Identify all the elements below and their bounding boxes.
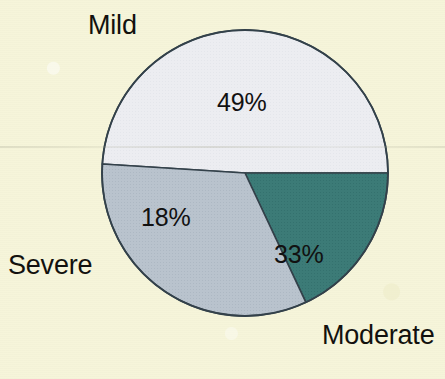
slice-percent-severe: 18%	[141, 205, 190, 230]
pie-chart-figure: Mild Severe Moderate 49% 18% 33%	[0, 0, 445, 379]
slice-percent-mild: 49%	[217, 90, 266, 115]
slice-label-mild: Mild	[88, 12, 137, 39]
slice-label-moderate: Moderate	[322, 322, 434, 349]
slice-percent-moderate: 33%	[274, 242, 323, 267]
slice-label-severe: Severe	[8, 252, 92, 279]
